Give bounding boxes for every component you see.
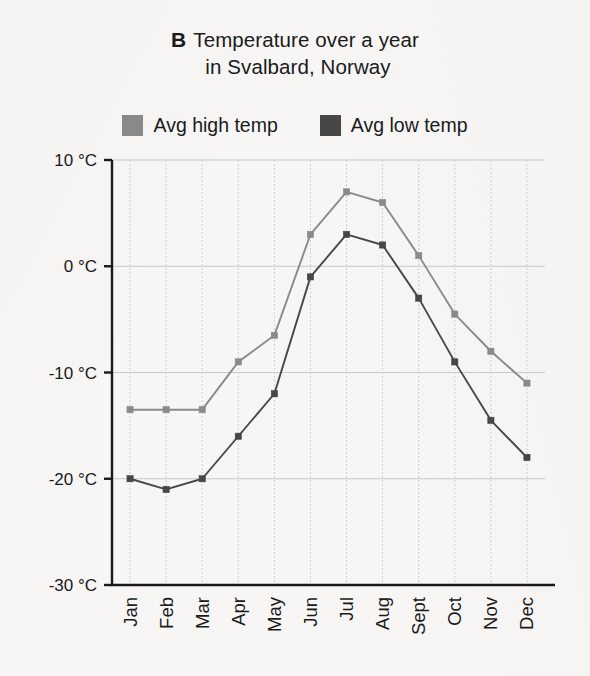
series-markers-avg-high xyxy=(127,189,530,413)
svg-text:Mar: Mar xyxy=(192,597,213,629)
series-markers-avg-low xyxy=(127,231,530,492)
svg-text:Feb: Feb xyxy=(156,597,177,629)
svg-text:May: May xyxy=(264,596,285,632)
svg-text:Dec: Dec xyxy=(516,597,537,630)
svg-text:Jul: Jul xyxy=(336,597,357,621)
svg-text:Aug: Aug xyxy=(372,597,393,630)
svg-text:0 °C: 0 °C xyxy=(64,257,97,276)
series-line-avg-high xyxy=(130,192,527,410)
svg-text:Apr: Apr xyxy=(228,597,249,626)
chart-plot-area: 10 °C0 °C-10 °C-20 °C-30 °C JanFebMarApr… xyxy=(0,0,590,676)
chart-svg: 10 °C0 °C-10 °C-20 °C-30 °C JanFebMarApr… xyxy=(0,0,590,676)
svg-text:-30 °C: -30 °C xyxy=(49,576,97,595)
svg-text:Jan: Jan xyxy=(120,597,141,627)
svg-text:10 °C: 10 °C xyxy=(54,151,97,170)
figure-panel-b: BTemperature over a year in Svalbard, No… xyxy=(0,0,590,676)
svg-text:Sept: Sept xyxy=(408,597,429,635)
svg-text:-10 °C: -10 °C xyxy=(49,364,97,383)
grid-lines-horizontal xyxy=(112,160,545,479)
y-axis-tick-labels: 10 °C0 °C-10 °C-20 °C-30 °C xyxy=(49,151,97,595)
svg-text:-20 °C: -20 °C xyxy=(49,470,97,489)
svg-text:Nov: Nov xyxy=(480,596,501,630)
x-axis-tick-labels: JanFebMarAprMayJunJulAugSeptOctNovDec xyxy=(120,596,538,635)
svg-text:Oct: Oct xyxy=(444,597,465,626)
series-line-avg-low xyxy=(130,234,527,489)
svg-text:Jun: Jun xyxy=(300,597,321,627)
